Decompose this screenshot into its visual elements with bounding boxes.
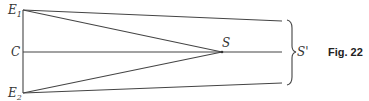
ray-e1-to-top-right: [23, 10, 282, 21]
figure-caption: Fig. 22: [328, 46, 363, 58]
ray-e1-to-s: [23, 10, 222, 52]
optics-diagram: E1 C E2 S S' Fig. 22: [0, 0, 369, 101]
curly-brace: [287, 20, 296, 85]
label-s: S: [222, 36, 230, 50]
point-s: [221, 51, 224, 54]
label-c: C: [11, 45, 20, 59]
label-e2: E2: [7, 86, 22, 101]
label-s-prime: S': [297, 45, 309, 59]
label-e1: E1: [7, 3, 22, 19]
